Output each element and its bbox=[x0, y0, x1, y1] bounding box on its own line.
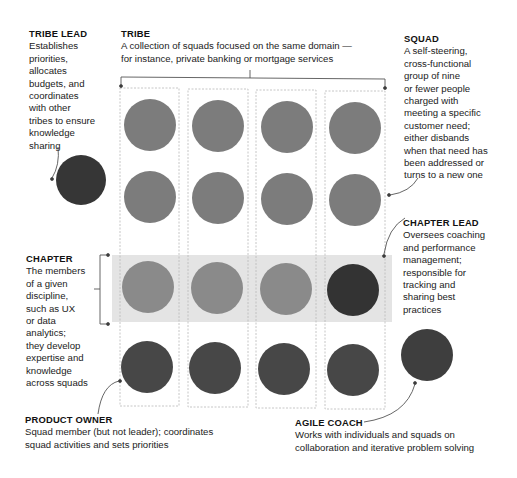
product-owner-circle bbox=[121, 341, 173, 393]
tribe-lead-desc-line: sharing bbox=[29, 140, 119, 152]
squad-member-circle bbox=[124, 99, 176, 151]
chapter-lead-label: CHAPTER LEAD Oversees coaching and perfo… bbox=[403, 217, 513, 316]
tribe-desc-line: for instance, private banking or mortgag… bbox=[121, 53, 391, 65]
tribe-lead-circle bbox=[56, 155, 106, 205]
chapter-lead-desc-line: Oversees coaching bbox=[403, 229, 513, 241]
tribe-lead-desc-line: knowledge bbox=[29, 127, 119, 139]
chapter-member-circle bbox=[122, 261, 174, 313]
tribe-label: TRIBE A collection of squads focused on … bbox=[121, 28, 391, 65]
squad-member-circle bbox=[261, 173, 313, 225]
tribe-lead-desc-line: budgets, and bbox=[29, 78, 119, 90]
agile-coach-desc-line: collaboration and iterative problem solv… bbox=[295, 442, 515, 454]
squad-desc-line: when that need has bbox=[404, 145, 514, 157]
agile-coach-desc-line: Works with individuals and squads on bbox=[295, 429, 515, 441]
product-owner-circle bbox=[189, 342, 241, 394]
squad-desc-line: turns to a new one bbox=[404, 169, 514, 181]
squad-member-circle bbox=[192, 172, 244, 224]
squad-desc-line: either disbands bbox=[404, 132, 514, 144]
squad-desc-line: been addressed or bbox=[404, 157, 514, 169]
squad-member-circle bbox=[124, 171, 176, 223]
product-owner-circle bbox=[327, 344, 379, 396]
squad-desc-line: meeting a specific bbox=[404, 107, 514, 119]
chapter-lead-title: CHAPTER LEAD bbox=[403, 217, 513, 229]
squad-desc-line: customer need; bbox=[404, 120, 514, 132]
chapter-desc-line: discipline, bbox=[26, 290, 101, 302]
squad-title: SQUAD bbox=[404, 33, 514, 45]
squad-desc-line: or fewer people bbox=[404, 83, 514, 95]
tribe-bracket bbox=[120, 70, 387, 90]
product-owner-circle bbox=[258, 343, 310, 395]
tribe-lead-desc-line: with other bbox=[29, 102, 119, 114]
chapter-desc-line: analytics; bbox=[26, 327, 101, 339]
chapter-member-circle bbox=[260, 263, 312, 315]
tribe-title: TRIBE bbox=[121, 28, 391, 40]
product-owner-title: PRODUCT OWNER bbox=[25, 414, 255, 426]
chapter-label: CHAPTER The members of a given disciplin… bbox=[26, 253, 101, 389]
chapter-lead-desc-line: responsible for bbox=[403, 267, 513, 279]
chapter-desc-line: The members bbox=[26, 265, 101, 277]
squad-member-circle bbox=[192, 100, 244, 152]
squad-label: SQUAD A self-steering, cross-functional … bbox=[404, 33, 514, 182]
tribe-lead-desc-line: Establishes bbox=[29, 40, 119, 52]
agile-coach-label: AGILE COACH Works with individuals and s… bbox=[295, 417, 515, 454]
chapter-desc-line: or data bbox=[26, 315, 101, 327]
squad-desc-line: charged with bbox=[404, 95, 514, 107]
agile-coach-circle bbox=[401, 329, 453, 381]
tribe-lead-label: TRIBE LEAD Establishes priorities, alloc… bbox=[29, 28, 119, 152]
chapter-desc-line: knowledge bbox=[26, 365, 101, 377]
product-owner-label: PRODUCT OWNER Squad member (but not lead… bbox=[25, 414, 255, 451]
chapter-lead-desc-line: and performance bbox=[403, 242, 513, 254]
tribe-lead-desc-line: coordinates bbox=[29, 90, 119, 102]
agile-coach-title: AGILE COACH bbox=[295, 417, 515, 429]
chapter-desc-line: expertise and bbox=[26, 352, 101, 364]
chapter-title: CHAPTER bbox=[26, 253, 101, 265]
chapter-lead-desc-line: sharing best bbox=[403, 291, 513, 303]
squad-desc-line: cross-functional bbox=[404, 58, 514, 70]
chapter-lead-arrow bbox=[384, 218, 405, 254]
squad-desc-line: group of nine bbox=[404, 70, 514, 82]
product-owner-desc-line: squad activities and sets priorities bbox=[25, 439, 255, 451]
squad-member-circle bbox=[329, 174, 381, 226]
chapter-desc-line: such as UX bbox=[26, 303, 101, 315]
chapter-lead-circle bbox=[327, 264, 379, 316]
product-owner-arrow bbox=[98, 381, 119, 414]
tribe-lead-desc-line: priorities, bbox=[29, 53, 119, 65]
squad-desc-line: A self-steering, bbox=[404, 45, 514, 57]
chapter-desc-line: across squads bbox=[26, 377, 101, 389]
tribe-lead-desc-line: tribes to ensure bbox=[29, 115, 119, 127]
tribe-lead-desc-line: allocates bbox=[29, 65, 119, 77]
chapter-lead-desc-line: tracking and bbox=[403, 279, 513, 291]
tribe-desc-line: A collection of squads focused on the sa… bbox=[121, 40, 391, 52]
chapter-lead-desc-line: practices bbox=[403, 304, 513, 316]
chapter-member-circle bbox=[191, 262, 243, 314]
chapter-lead-desc-line: management; bbox=[403, 254, 513, 266]
product-owner-desc-line: Squad member (but not leader); coordinat… bbox=[25, 426, 255, 438]
chapter-desc-line: of a given bbox=[26, 278, 101, 290]
squad-member-circle bbox=[261, 101, 313, 153]
chapter-desc-line: they develop bbox=[26, 340, 101, 352]
tribe-lead-title: TRIBE LEAD bbox=[29, 28, 119, 40]
squad-member-circle bbox=[329, 102, 381, 154]
